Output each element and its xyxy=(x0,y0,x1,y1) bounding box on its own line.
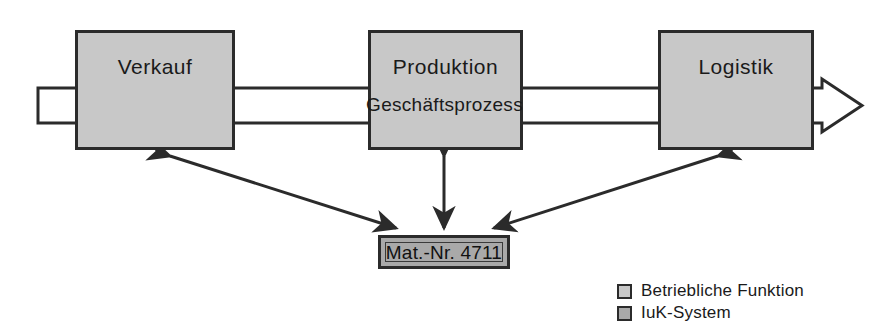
legend-label-iuk-system: IuK-System xyxy=(641,303,731,323)
legend-item-iuk-system: IuK-System xyxy=(617,303,804,323)
function-box-label-logistik: Logistik xyxy=(658,55,814,79)
legend-swatch-iuk-system xyxy=(617,306,632,321)
diagram-canvas: Verkauf Produktion Logistik Geschäftspro… xyxy=(0,0,889,335)
legend: Betriebliche Funktion IuK-System xyxy=(617,281,804,325)
connector-verkauf xyxy=(170,156,396,228)
process-bar-label: Geschäftsprozess xyxy=(0,94,889,116)
function-box-verkauf xyxy=(75,30,235,150)
function-box-label-verkauf: Verkauf xyxy=(75,55,235,79)
connector-logistik xyxy=(494,156,718,228)
legend-swatch-betriebliche-funktion xyxy=(617,284,632,299)
system-box-label: Mat.-Nr. 4711 xyxy=(378,242,510,264)
legend-label-betriebliche-funktion: Betriebliche Funktion xyxy=(641,281,804,301)
function-box-produktion xyxy=(368,30,523,150)
function-box-label-produktion: Produktion xyxy=(368,55,523,79)
function-box-logistik xyxy=(658,30,814,150)
legend-item-betriebliche-funktion: Betriebliche Funktion xyxy=(617,281,804,301)
